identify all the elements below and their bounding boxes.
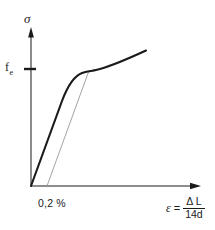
fraction-numerator: Δ L	[184, 196, 203, 208]
x-axis-label: ε = Δ L 14d	[166, 196, 205, 220]
stress-strain-curve	[31, 51, 146, 187]
strain-fraction: Δ L 14d	[183, 196, 205, 220]
y-axis-arrowhead	[28, 27, 34, 38]
offset-annotation-label: 0,2 %	[38, 198, 66, 209]
strain-symbol: ε	[166, 202, 171, 214]
fraction-denominator: 14d	[183, 209, 205, 221]
yield-strength-symbol: f	[5, 60, 9, 74]
equals-sign: =	[174, 203, 180, 214]
yield-strength-subscript: e	[10, 68, 14, 77]
x-axis-arrowhead	[190, 183, 201, 189]
yield-strength-label: fe	[5, 61, 13, 76]
y-axis-label: σ	[24, 12, 30, 25]
stress-strain-diagram: σ fe 0,2 % ε = Δ L 14d	[0, 0, 215, 230]
